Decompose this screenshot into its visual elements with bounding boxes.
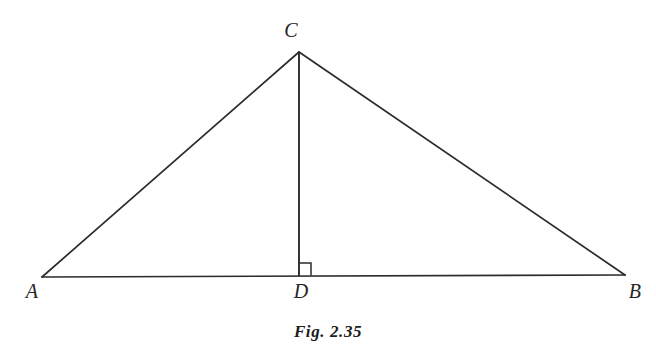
- right-angle-marker: [299, 263, 311, 276]
- segment-cb: [299, 52, 625, 275]
- triangle-diagram-canvas: [0, 0, 656, 347]
- triangle-sides: [42, 52, 625, 277]
- vertex-label-d: D: [294, 281, 309, 301]
- geometry-figure: A B C D Fig. 2.35: [0, 0, 656, 347]
- figure-caption: Fig. 2.35: [0, 323, 656, 340]
- segment-ac: [42, 52, 299, 277]
- vertex-label-b: B: [629, 281, 641, 301]
- segment-ab-base: [42, 275, 625, 277]
- vertex-label-c: C: [284, 20, 298, 40]
- vertex-label-a: A: [26, 281, 38, 301]
